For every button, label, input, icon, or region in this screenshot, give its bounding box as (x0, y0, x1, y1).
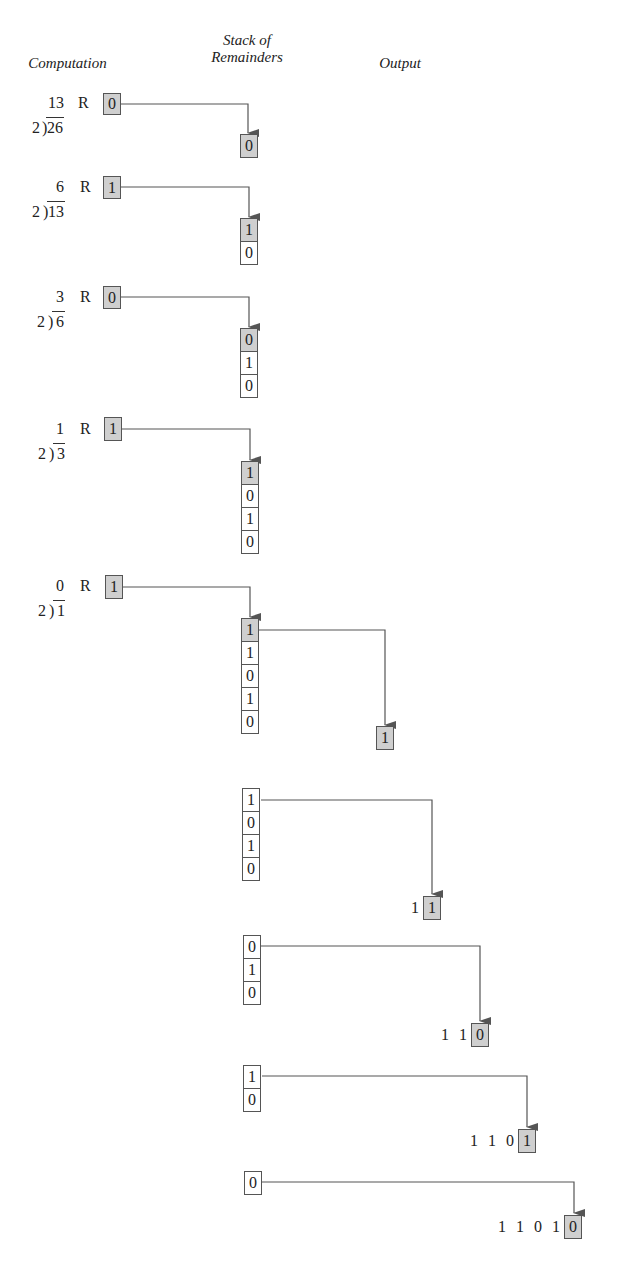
stack-cell: 0 (242, 857, 260, 881)
stack-cell: 0 (241, 530, 259, 554)
output-popped-digit: 0 (471, 1023, 489, 1047)
remainder-box: 0 (103, 93, 121, 115)
remainder-stack-1: 0 (240, 134, 258, 158)
dividend: 6 (56, 313, 64, 331)
stack-cell: 1 (241, 618, 259, 642)
stack-cell: 1 (241, 641, 259, 665)
output-popped-digit: 1 (423, 896, 441, 920)
r-label: R (80, 178, 91, 196)
division-bar (47, 201, 65, 202)
stack-cell: 0 (240, 241, 258, 265)
stack-cell: 1 (240, 351, 258, 375)
header-stack: Stack of Remainders (197, 32, 297, 66)
pop-stack-3: 1 0 (243, 1065, 261, 1112)
division-bar (46, 117, 64, 118)
stack-cell: 1 (242, 788, 260, 812)
quotient: 3 (40, 288, 64, 306)
dividend: 26 (47, 119, 63, 137)
stack-cell: 0 (241, 484, 259, 508)
pop-stack-1: 1 0 1 0 (242, 788, 260, 881)
quotient: 13 (40, 94, 64, 112)
header-computation: Computation (20, 55, 115, 72)
r-label: R (80, 577, 91, 595)
stack-cell: 1 (241, 507, 259, 531)
stack-cell: 1 (242, 834, 260, 858)
stack-cell: 1 (241, 461, 259, 485)
stack-cell: 0 (240, 134, 258, 158)
division-bracket-icon: ) (48, 313, 53, 331)
remainder-box: 0 (103, 286, 121, 309)
r-label: R (78, 94, 89, 112)
stack-cell: 0 (243, 981, 261, 1005)
divisor: 2 (32, 203, 40, 221)
stack-cell: 1 (243, 1065, 261, 1089)
stack-cell: 1 (240, 218, 258, 242)
remainder-box: 1 (104, 417, 122, 441)
division-bracket-icon: ) (49, 445, 54, 463)
remainder-stack-2: 1 0 (240, 218, 258, 265)
r-label: R (80, 420, 91, 438)
header-output: Output (370, 55, 430, 72)
stack-cell: 1 (241, 687, 259, 711)
stack-cell: 0 (243, 935, 261, 959)
output-popped-digit: 0 (564, 1215, 582, 1239)
divisor: 2 (37, 313, 45, 331)
r-label: R (80, 288, 91, 306)
header-stack-line2: Remainders (197, 49, 297, 66)
output-popped-digit: 1 (376, 726, 394, 750)
dividend: 1 (57, 602, 65, 620)
remainder-box: 1 (103, 176, 121, 199)
output-popped-digit: 1 (518, 1129, 536, 1153)
stack-cell: 0 (240, 328, 258, 352)
output-prefix: 1 1 0 1 (460, 1215, 563, 1239)
divisor: 2 (38, 602, 46, 620)
header-stack-line1: Stack of (197, 32, 297, 49)
division-bar (52, 311, 65, 312)
dividend: 3 (57, 445, 65, 463)
remainder-stack-3: 0 1 0 (240, 328, 258, 398)
remainder-box: 1 (105, 575, 123, 599)
stack-cell: 0 (242, 811, 260, 835)
remainder-stack-5: 1 1 0 1 0 (241, 618, 259, 734)
stack-cell: 0 (243, 1088, 261, 1112)
output-prefix: 1 1 (400, 1023, 470, 1047)
arrow-connectors (0, 0, 620, 1284)
output-prefix: 1 (370, 896, 422, 920)
quotient: 0 (40, 577, 64, 595)
stack-cell: 1 (243, 958, 261, 982)
dividend: 13 (48, 203, 64, 221)
stack-cell: 0 (240, 374, 258, 398)
division-bar (53, 600, 65, 601)
remainder-stack-4: 1 0 1 0 (241, 461, 259, 554)
division-bar (53, 443, 65, 444)
divisor: 2 (38, 445, 46, 463)
stack-cell: 0 (244, 1171, 262, 1195)
divisor: 2 (32, 119, 40, 137)
pop-stack-2: 0 1 0 (243, 935, 261, 1005)
output-prefix: 1 1 0 (430, 1129, 517, 1153)
division-bracket-icon: ) (49, 602, 54, 620)
stack-cell: 0 (241, 664, 259, 688)
quotient: 6 (40, 178, 64, 196)
stack-cell: 0 (241, 710, 259, 734)
quotient: 1 (40, 420, 64, 438)
pop-stack-4: 0 (244, 1171, 262, 1195)
